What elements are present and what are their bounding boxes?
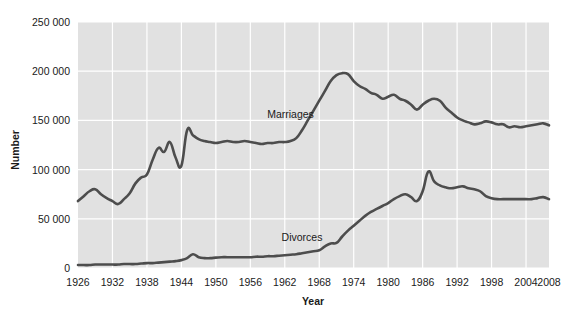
line-chart: 250 000200 000150 000100 00050 0000 1926… — [0, 0, 574, 319]
x-axis-tick-labels: 1926193219381944195019561962196819741980… — [66, 276, 561, 288]
x-tick-label: 1974 — [342, 276, 366, 288]
x-tick-label: 1980 — [376, 276, 400, 288]
y-axis-title: Number — [9, 130, 21, 170]
x-axis-title: Year — [302, 295, 324, 307]
x-tick-label: 1956 — [239, 276, 263, 288]
x-tick-label: 1962 — [273, 276, 297, 288]
x-tick-label: 2004 — [514, 276, 538, 288]
chart-container: 250 000200 000150 000100 00050 0000 1926… — [0, 0, 574, 319]
y-tick-label: 250 000 — [32, 16, 70, 28]
x-tick-label: 2008 — [537, 276, 561, 288]
y-tick-label: 50 000 — [38, 213, 70, 225]
x-tick-label: 1926 — [66, 276, 90, 288]
y-tick-label: 150 000 — [32, 114, 70, 126]
x-tick-label: 1944 — [170, 276, 194, 288]
series-label-divorces: Divorces — [282, 231, 323, 243]
x-tick-label: 1968 — [308, 276, 332, 288]
series-label-marriages: Marriages — [267, 108, 314, 120]
y-tick-label: 100 000 — [32, 164, 70, 176]
x-tick-label: 1938 — [135, 276, 159, 288]
y-tick-label: 0 — [64, 262, 70, 274]
x-tick-label: 1986 — [411, 276, 435, 288]
y-tick-label: 200 000 — [32, 65, 70, 77]
x-tick-label: 1932 — [101, 276, 125, 288]
x-tick-label: 1950 — [204, 276, 228, 288]
x-tick-label: 1992 — [445, 276, 469, 288]
x-tick-label: 1998 — [480, 276, 504, 288]
